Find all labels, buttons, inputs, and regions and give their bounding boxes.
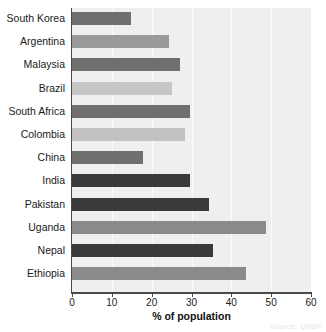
category-label-colombia: Colombia — [0, 128, 65, 141]
bar-nepal — [72, 244, 213, 257]
bar-colombia — [72, 128, 185, 141]
category-label-south-africa: South Africa — [0, 105, 65, 118]
category-label-malaysia: Malaysia — [0, 58, 65, 71]
tick-label-40: 40 — [219, 297, 243, 309]
tick-label-0: 0 — [60, 297, 84, 309]
gridline-40 — [231, 8, 232, 292]
tick-label-50: 50 — [259, 297, 283, 309]
bar-fill — [72, 82, 172, 95]
bar-south-africa — [72, 105, 190, 118]
bar-chart: South KoreaArgentinaMalaysiaBrazilSouth … — [0, 0, 326, 332]
category-label-china: China — [0, 151, 65, 164]
bar-south-korea — [72, 12, 131, 25]
bar-malaysia — [72, 58, 180, 71]
tick-label-10: 10 — [100, 297, 124, 309]
category-label-ethiopia: Ethiopia — [0, 267, 65, 280]
bar-fill — [72, 151, 143, 164]
bar-china — [72, 151, 143, 164]
bar-india — [72, 174, 190, 187]
bar-fill — [72, 128, 185, 141]
category-label-uganda: Uganda — [0, 221, 65, 234]
bar-uganda — [72, 221, 266, 234]
bar-fill — [72, 58, 180, 71]
bar-fill — [72, 267, 246, 280]
bar-fill — [72, 174, 190, 187]
source-watermark: Source: UNDP — [270, 323, 322, 330]
category-label-south-korea: South Korea — [0, 12, 65, 25]
category-label-argentina: Argentina — [0, 35, 65, 48]
bar-fill — [72, 198, 209, 211]
category-label-india: India — [0, 174, 65, 187]
x-axis-title: % of population — [72, 310, 311, 322]
category-label-pakistan: Pakistan — [0, 198, 65, 211]
bar-fill — [72, 35, 169, 48]
category-label-nepal: Nepal — [0, 244, 65, 257]
tick-label-60: 60 — [299, 297, 323, 309]
gridline-50 — [271, 8, 272, 292]
bar-argentina — [72, 35, 169, 48]
bar-pakistan — [72, 198, 209, 211]
category-label-brazil: Brazil — [0, 82, 65, 95]
bar-fill — [72, 244, 213, 257]
tick-label-30: 30 — [180, 297, 204, 309]
bar-fill — [72, 105, 190, 118]
tick-label-20: 20 — [140, 297, 164, 309]
bar-ethiopia — [72, 267, 246, 280]
bar-fill — [72, 12, 131, 25]
bar-fill — [72, 221, 266, 234]
bar-brazil — [72, 82, 172, 95]
